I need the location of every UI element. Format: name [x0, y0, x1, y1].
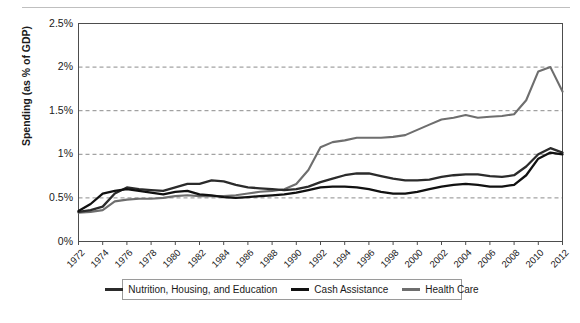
chart-legend: Nutrition, Housing, and EducationCash As…: [122, 279, 462, 300]
legend-item: Cash Assistance: [291, 284, 388, 295]
legend-swatch-icon: [105, 288, 123, 291]
legend-swatch-icon: [291, 288, 309, 291]
legend-label: Nutrition, Housing, and Education: [128, 284, 277, 295]
series-line: [79, 148, 563, 212]
legend-label: Health Care: [425, 284, 478, 295]
legend-item: Nutrition, Housing, and Education: [105, 284, 277, 295]
legend-label: Cash Assistance: [314, 284, 388, 295]
plot-area: [0, 0, 580, 323]
x-axis-tick-marks: [79, 242, 563, 246]
plot-frame: [79, 24, 563, 242]
series-lines: [79, 67, 563, 213]
legend-item: Health Care: [402, 284, 478, 295]
chart-container: Spending (as % of GDP) 0%0.5%1%1.5%2%2.5…: [0, 0, 580, 323]
legend-swatch-icon: [402, 288, 420, 291]
gridlines: [79, 67, 563, 198]
